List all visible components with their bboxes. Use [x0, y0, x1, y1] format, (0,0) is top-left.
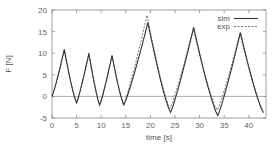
x-tick-label: 15 — [121, 121, 130, 130]
series-sim-line — [52, 23, 264, 116]
x-tick-label: 35 — [220, 121, 229, 130]
legend: sim exp — [217, 14, 258, 31]
x-tick-label: 5 — [74, 121, 79, 130]
x-tick-label: 10 — [97, 121, 106, 130]
y-tick-label: -5 — [40, 114, 48, 123]
x-tick-label: 25 — [171, 121, 180, 130]
y-tick-label: 15 — [38, 28, 47, 37]
y-axis-label: F [N] — [4, 55, 13, 72]
y-tick-label: 10 — [38, 49, 47, 58]
series-exp-line — [52, 15, 264, 111]
x-tick-label: 20 — [146, 121, 155, 130]
x-tick-label: 30 — [195, 121, 204, 130]
x-tick-label: 0 — [50, 121, 55, 130]
y-tick-label: 5 — [43, 71, 48, 80]
x-tick-label: 40 — [244, 121, 253, 130]
y-tick-label: 0 — [43, 92, 48, 101]
legend-label-exp: exp — [217, 22, 230, 31]
x-axis-label: time [s] — [146, 133, 172, 142]
chart: 0510152025303540 -505101520 time [s] F [… — [0, 0, 278, 150]
y-tick-label: 20 — [38, 6, 47, 15]
plot-frame — [52, 10, 266, 118]
